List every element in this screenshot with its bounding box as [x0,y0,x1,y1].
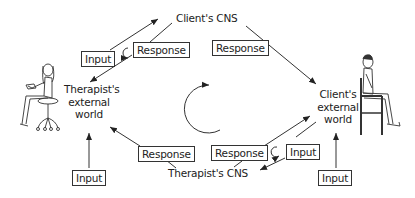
response-box-top-right: Response [212,40,269,56]
connector-client-world-input [296,122,316,137]
therapist-figure [20,64,60,131]
client-world-line-3: world [315,113,361,126]
loop-arrow-top-left [123,48,128,58]
therapist-world-line-3: world [64,108,114,121]
therapist-world-line-1: Therapist's [64,83,114,96]
connector-client-cns-response [150,23,172,42]
therapist-cns-label: Therapist's CNS [168,167,248,180]
client-world-line-1: Client's [315,88,361,101]
client-world-line-2: external [315,101,361,114]
arrow-response-to-client-world [264,116,310,146]
loop-arrow-bottom-right [271,147,279,157]
response-box-bottom-right: Response [211,145,268,161]
center-cycle-arrow [184,85,220,133]
input-box-bottom-right: Input [286,144,320,160]
response-box-bottom-left: Response [138,146,195,162]
client-figure [361,55,400,135]
response-box-top-left: Response [133,42,190,58]
diagram-canvas: Client's CNS Therapist's CNS Therapist's… [0,0,415,198]
input-box-therapist: Input [72,170,106,186]
therapist-external-world-label: Therapist's external world [64,83,114,121]
client-external-world-label: Client's external world [315,88,361,126]
client-cns-label: Client's CNS [176,12,238,25]
arrow-response-to-therapist-world-bottom [110,127,140,146]
therapist-world-line-2: external [64,96,114,109]
input-box-top-left: Input [81,51,115,67]
input-box-client: Input [318,170,352,186]
